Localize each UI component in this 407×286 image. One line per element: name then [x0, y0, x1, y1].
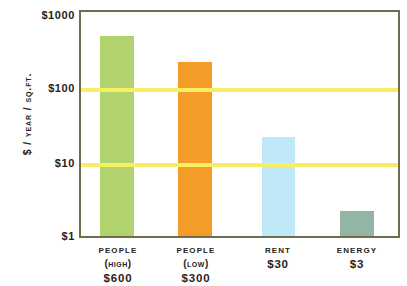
bar-people-high: [100, 36, 134, 236]
bar-energy: [340, 211, 374, 236]
y-tick-label-1000: $1000: [5, 9, 75, 21]
category-value: $300: [136, 272, 256, 285]
plot-frame: [79, 10, 400, 238]
gridline-10: [81, 163, 398, 167]
y-tick-label-1: $1: [5, 230, 75, 242]
y-axis-title: $ / Year / Sq.Ft.: [21, 24, 33, 204]
y-tick-label-100: $100: [5, 82, 75, 94]
plot-area: [81, 12, 398, 236]
bar-rent: [262, 137, 295, 236]
category-value: $3: [297, 258, 407, 271]
category-label-energy: Energy $3: [297, 243, 407, 271]
category-name: Energy: [297, 243, 407, 256]
y-tick-label-10: $10: [5, 157, 75, 169]
bar-chart: $ / Year / Sq.Ft. $1000 $100 $10 $1 Peop…: [0, 0, 407, 286]
gridline-100: [81, 88, 398, 92]
